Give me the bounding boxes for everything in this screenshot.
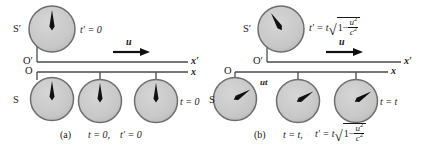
- denominator-exponent-caption-b: 2: [360, 131, 363, 138]
- caption-letter-a: (a): [60, 130, 71, 140]
- velocity-arrow-b: [326, 48, 363, 56]
- clock-moving-a: [29, 6, 75, 52]
- rest-frame-axis: [235, 72, 388, 82]
- clock-rest-a-3: [135, 80, 178, 123]
- axis-label-moving-a: x′: [191, 56, 199, 66]
- origin-label-rest-a: O: [25, 66, 33, 77]
- clock-rest-b-3: [335, 80, 378, 123]
- axis-label-rest-a: x: [191, 67, 196, 77]
- fraction-caption-b: u2c2: [354, 124, 364, 143]
- radicand-caption-b: 1−u2c2: [343, 123, 366, 144]
- radicand-clock-b: 1−u2c2: [337, 17, 360, 38]
- caption-letter-b: (b): [254, 130, 266, 140]
- radical-sign-icon: √: [329, 23, 337, 38]
- axis-label-rest-b: x: [391, 66, 396, 76]
- caption-eq2-a: t′ = 0: [120, 130, 142, 140]
- velocity-arrow-a: [113, 48, 150, 56]
- velocity-label-a: u: [126, 37, 132, 47]
- radicand-lead-clock-b: 1−: [338, 22, 349, 33]
- clock-rest-b-1: [214, 78, 257, 121]
- clock-reading-moving-b: t′ = t√1−u2c2: [309, 18, 360, 39]
- radical-expression-caption-b: √1−u2c2: [335, 124, 367, 145]
- panel-a: S′ S O′ O x′ x u t′ = 0 t = 0 (a) t = 0,…: [0, 0, 213, 149]
- numerator-exponent-clock-b: 2: [354, 15, 357, 22]
- fraction-denominator-caption-b: c2: [354, 134, 364, 143]
- displacement-label-b: ut: [260, 78, 268, 87]
- origin-label-rest-b: O: [224, 66, 232, 77]
- origin-label-moving-b: O′: [253, 56, 263, 67]
- frame-label-rest-a: S: [13, 95, 19, 106]
- time-dilation-figure: S′ S O′ O x′ x u t′ = 0 t = 0 (a) t = 0,…: [0, 0, 426, 149]
- clock-rest-a-1: [31, 78, 74, 121]
- caption-eq1-a: t = 0,: [88, 130, 110, 140]
- axis-label-moving-b: x′: [404, 56, 412, 66]
- caption-eq2-b: t′ = t√1−u2c2: [315, 124, 366, 145]
- radicand-lead-caption-b: 1−: [344, 128, 355, 139]
- clock-rest-a-2: [79, 80, 122, 123]
- radical-sign-icon-caption: √: [335, 129, 343, 144]
- clock-reading-moving-b-lead: t′ = t: [309, 22, 329, 33]
- caption-eq1-b: t = t,: [283, 130, 303, 140]
- caption-eq2-b-lead: t′ = t: [315, 128, 335, 139]
- clock-rest-b-2: [277, 80, 320, 123]
- clock-moving-b: [258, 6, 304, 52]
- fraction-clock-b: u2c2: [348, 18, 358, 37]
- frame-label-moving-b: S′: [243, 24, 251, 35]
- frame-label-rest-b: S: [209, 95, 215, 106]
- fraction-denominator-clock-b: c2: [348, 28, 358, 37]
- clock-reading-moving-a: t′ = 0: [80, 25, 102, 35]
- clock-reading-rest-a: t = 0: [180, 97, 200, 107]
- denominator-exponent-clock-b: 2: [354, 25, 357, 32]
- radical-expression-clock-b: √1−u2c2: [329, 18, 361, 39]
- clock-reading-rest-b: t = t: [380, 97, 397, 107]
- panel-b: S′ S O′ O x′ x u ut t = t t′ = t√1−u2c2 …: [213, 0, 426, 149]
- frame-label-moving-a: S′: [13, 24, 21, 35]
- numerator-exponent-caption-b: 2: [360, 121, 363, 128]
